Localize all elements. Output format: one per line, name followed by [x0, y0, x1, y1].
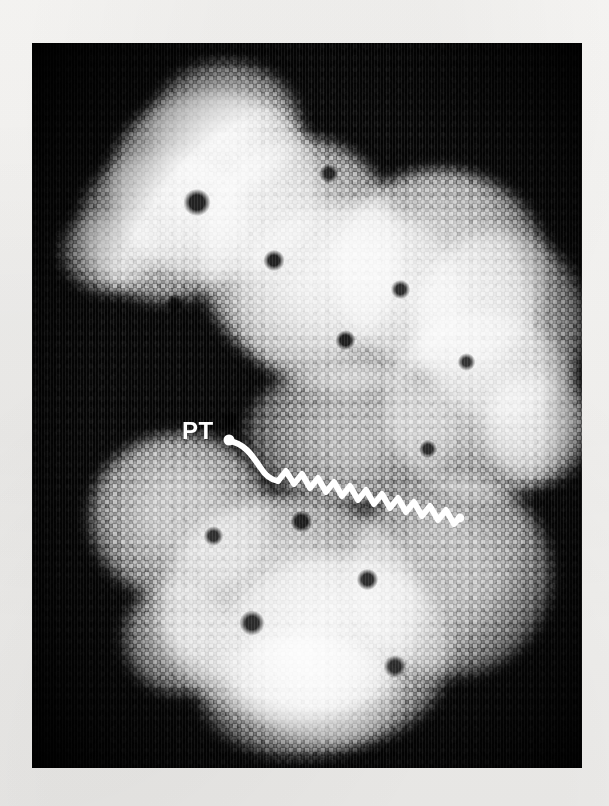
- figure-panel: PT: [32, 43, 582, 768]
- molecule-protrusion-right: [484, 373, 582, 483]
- figure-image: PT: [32, 43, 582, 768]
- molecule-protrusion-bottom-left: [124, 583, 234, 693]
- molecule-protrusion-left: [62, 211, 157, 291]
- molecule-lobe-lower-right: [350, 475, 550, 675]
- pt-leader-start-dot: [224, 435, 235, 446]
